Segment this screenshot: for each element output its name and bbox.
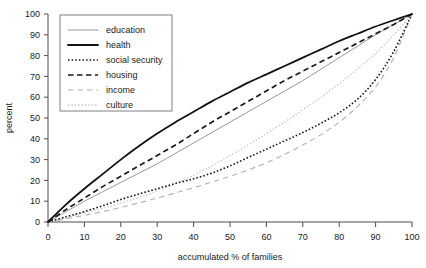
x-tick-label: 40 [189, 232, 199, 242]
y-tick-label: 40 [30, 134, 40, 144]
x-tick-label: 30 [152, 232, 162, 242]
chart-legend: educationhealthsocial securityhousinginc… [60, 15, 172, 111]
x-tick-label: 80 [334, 232, 344, 242]
x-tick-label: 10 [79, 232, 89, 242]
legend-label-income: income [106, 85, 135, 95]
y-tick-label: 90 [30, 30, 40, 40]
y-tick-label: 20 [30, 176, 40, 186]
x-tick-label: 50 [225, 232, 235, 242]
y-axis-ticks [44, 14, 48, 222]
x-axis-title: accumulated % of families [178, 252, 283, 262]
x-tick-label: 70 [298, 232, 308, 242]
legend-label-health: health [106, 40, 131, 50]
x-tick-label: 100 [404, 232, 419, 242]
x-tick-label: 90 [371, 232, 381, 242]
chart-canvas: 0102030405060708090100 01020304050607080… [0, 0, 426, 268]
x-axis-tick-labels: 0102030405060708090100 [45, 232, 419, 242]
y-tick-label: 80 [30, 51, 40, 61]
y-axis-title: percent [4, 102, 14, 133]
lorenz-curve-chart: 0102030405060708090100 01020304050607080… [0, 0, 426, 268]
y-tick-label: 50 [30, 113, 40, 123]
y-tick-label: 10 [30, 196, 40, 206]
legend-label-social-security: social security [106, 55, 163, 65]
y-tick-label: 60 [30, 92, 40, 102]
legend-label-housing: housing [106, 70, 138, 80]
legend-label-culture: culture [106, 100, 133, 110]
y-tick-label: 0 [35, 217, 40, 227]
x-tick-label: 60 [261, 232, 271, 242]
y-axis-tick-labels: 0102030405060708090100 [25, 9, 40, 227]
legend-label-education: education [106, 25, 145, 35]
y-tick-label: 100 [25, 9, 40, 19]
y-tick-label: 30 [30, 155, 40, 165]
x-tick-label: 20 [116, 232, 126, 242]
x-axis-ticks [48, 222, 412, 227]
x-tick-label: 0 [45, 232, 50, 242]
y-tick-label: 70 [30, 72, 40, 82]
